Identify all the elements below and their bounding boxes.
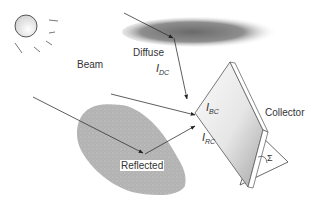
i-rc-label: IRC <box>202 131 215 145</box>
tilt-angle-label: Σ <box>267 153 273 163</box>
i-bc-label: IBC <box>206 101 219 115</box>
sun-icon <box>15 15 58 53</box>
beam-label: Beam <box>77 59 103 70</box>
diffuse-label: Diffuse <box>133 47 164 58</box>
i-dc-label: IDC <box>156 62 169 76</box>
collector-label: Collector <box>265 107 304 118</box>
ground-reflector-shape <box>77 104 186 195</box>
solar-collector-diagram <box>0 0 319 203</box>
reflected-label: Reflected <box>120 160 164 171</box>
diffuse-ray <box>174 38 187 99</box>
cloud-shape <box>122 17 278 47</box>
collector-panel <box>195 62 288 188</box>
